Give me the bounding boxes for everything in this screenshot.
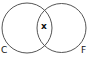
intersection-label: x: [41, 22, 47, 31]
set-c-label: C: [1, 46, 7, 55]
set-f-label: F: [81, 46, 86, 55]
